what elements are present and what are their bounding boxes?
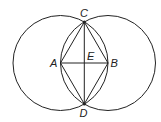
segment-ac xyxy=(61,22,85,63)
label-b: B xyxy=(111,57,118,69)
label-d: D xyxy=(80,107,88,119)
point-d xyxy=(83,103,86,106)
segment-da xyxy=(61,63,85,104)
label-a: A xyxy=(49,57,57,69)
label-e: E xyxy=(87,50,95,62)
point-c xyxy=(83,21,86,24)
label-c: C xyxy=(80,7,88,19)
segment-bd xyxy=(84,63,108,104)
geometry-diagram: C D A B E xyxy=(0,0,161,122)
